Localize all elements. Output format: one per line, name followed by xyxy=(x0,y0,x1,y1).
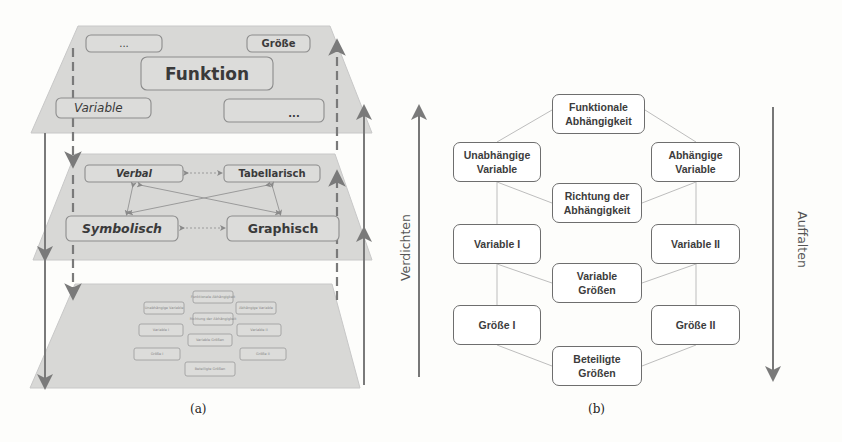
bottom-mini-groesse2: Größe II xyxy=(240,348,286,360)
node-line1: Größe I xyxy=(479,318,516,332)
middle-box-symbolisch: Symbolisch xyxy=(66,216,178,241)
node-variable-1: Variable I xyxy=(453,224,541,264)
middle-box-tabellarisch: Tabellarisch xyxy=(224,165,320,182)
top-box-variable: Variable xyxy=(56,98,151,118)
node-line2: Abhängigkeit xyxy=(564,203,631,217)
node-line1: Variable I xyxy=(474,237,520,251)
node-line2: Größen xyxy=(578,366,615,380)
bottom-mini-groesse1: Größe I xyxy=(134,348,180,360)
node-beteiligte-groessen: Beteiligte Größen xyxy=(552,346,642,386)
bottom-mini-beteiligte: Beteiligte Größen xyxy=(185,362,235,376)
node-line1: Variable II xyxy=(671,237,720,251)
top-box-groesse: Größe xyxy=(247,35,310,52)
node-line1: Funktionale xyxy=(569,100,628,114)
middle-box-verbal: Verbal xyxy=(85,165,183,182)
node-groesse-1: Größe I xyxy=(453,305,541,345)
node-line1: Größe II xyxy=(676,318,716,332)
auffalten-label: Auffalten xyxy=(795,200,810,280)
bottom-mini-funktionale: Funktionale Abhängigkeit xyxy=(193,291,233,303)
node-line2: Abhängigkeit xyxy=(565,114,632,128)
verdichten-label: Verdichten xyxy=(398,208,413,288)
node-line1: Unabhängige xyxy=(464,148,531,162)
node-line2: Größen xyxy=(578,283,615,297)
node-abhaengige-variable: Abhängige Variable xyxy=(651,142,740,182)
top-box-funktion: Funktion xyxy=(141,57,273,90)
figure-canvas: ... Größe Funktion Variable ... Verbal T… xyxy=(0,0,842,442)
node-line1: Variable xyxy=(577,269,617,283)
node-groesse-2: Größe II xyxy=(651,305,740,345)
top-box-ellipsis-left: ... xyxy=(86,35,162,52)
top-box-ellipsis-right: ... xyxy=(224,104,324,122)
node-funktionale-abhaengigkeit: Funktionale Abhängigkeit xyxy=(552,94,645,134)
bottom-mini-variable1: Variable I xyxy=(139,324,183,336)
node-unabhaengige-variable: Unabhängige Variable xyxy=(453,142,541,182)
caption-a: (a) xyxy=(190,402,207,416)
bottom-mini-unabhaengige: Unabhängige Variable xyxy=(144,302,184,314)
node-line1: Beteiligte xyxy=(573,352,620,366)
caption-b: (b) xyxy=(588,402,605,416)
node-variable-groessen: Variable Größen xyxy=(552,263,642,303)
bottom-mini-variable2: Variable II xyxy=(237,324,281,336)
node-variable-2: Variable II xyxy=(651,224,740,264)
bottom-mini-abhaengige: Abhängige Variable xyxy=(236,302,276,314)
node-line1: Richtung der xyxy=(565,189,630,203)
middle-layer xyxy=(33,154,372,260)
bottom-mini-variable-groessen: Variable Größen xyxy=(188,334,232,346)
middle-box-graphisch: Graphisch xyxy=(227,216,339,241)
bottom-mini-richtung: Richtung der Abhängigkeit xyxy=(193,313,233,325)
node-richtung-der-abhaengigkeit: Richtung der Abhängigkeit xyxy=(552,183,642,223)
node-line1: Abhängige xyxy=(668,148,722,162)
node-line2: Variable xyxy=(675,162,715,176)
node-line2: Variable xyxy=(477,162,517,176)
